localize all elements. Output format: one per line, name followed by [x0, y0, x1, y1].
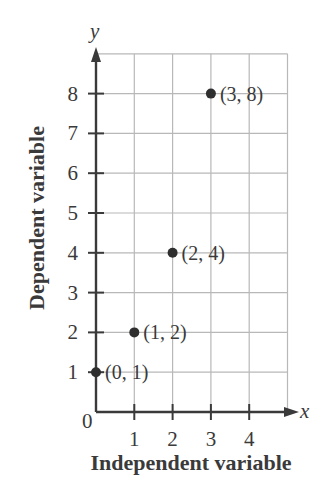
x-tick-label: 1: [129, 427, 140, 451]
y-tick-label: 8: [68, 82, 79, 106]
grid-lines: [96, 54, 288, 412]
y-tick-label: 3: [68, 281, 79, 305]
data-point-label: (3, 8): [220, 83, 263, 106]
data-point: [129, 327, 139, 337]
y-tick-label: 4: [68, 241, 79, 265]
data-point: [206, 89, 216, 99]
data-point: [91, 367, 101, 377]
data-point-label: (1, 2): [143, 321, 186, 344]
x-tick-label: 3: [206, 427, 217, 451]
x-axis-title: Independent variable: [90, 450, 291, 475]
data-points: (0, 1)(1, 2)(2, 4)(3, 8): [91, 83, 263, 385]
y-tick-label: 6: [68, 161, 79, 185]
data-point-label: (0, 1): [105, 361, 148, 384]
x-axis-arrow-icon: [284, 407, 299, 417]
x-tick-label: 4: [244, 427, 255, 451]
y-tick-label: 1: [68, 360, 79, 384]
x-axis-name: x: [299, 399, 310, 423]
data-point: [168, 248, 178, 258]
y-tick-label: 5: [68, 201, 79, 225]
y-axis-name: y: [88, 19, 100, 43]
y-axis-title: Dependent variable: [24, 126, 49, 310]
y-tick-label: 7: [68, 121, 79, 145]
y-axis-arrow-icon: [91, 47, 101, 62]
y-tick-label: 2: [68, 320, 79, 344]
x-tick-label: 2: [167, 427, 178, 451]
data-point-label: (2, 4): [182, 242, 225, 265]
origin-label: 0: [82, 409, 93, 433]
scatter-chart: 123456781234 (0, 1)(1, 2)(2, 4)(3, 8) y …: [0, 0, 326, 498]
